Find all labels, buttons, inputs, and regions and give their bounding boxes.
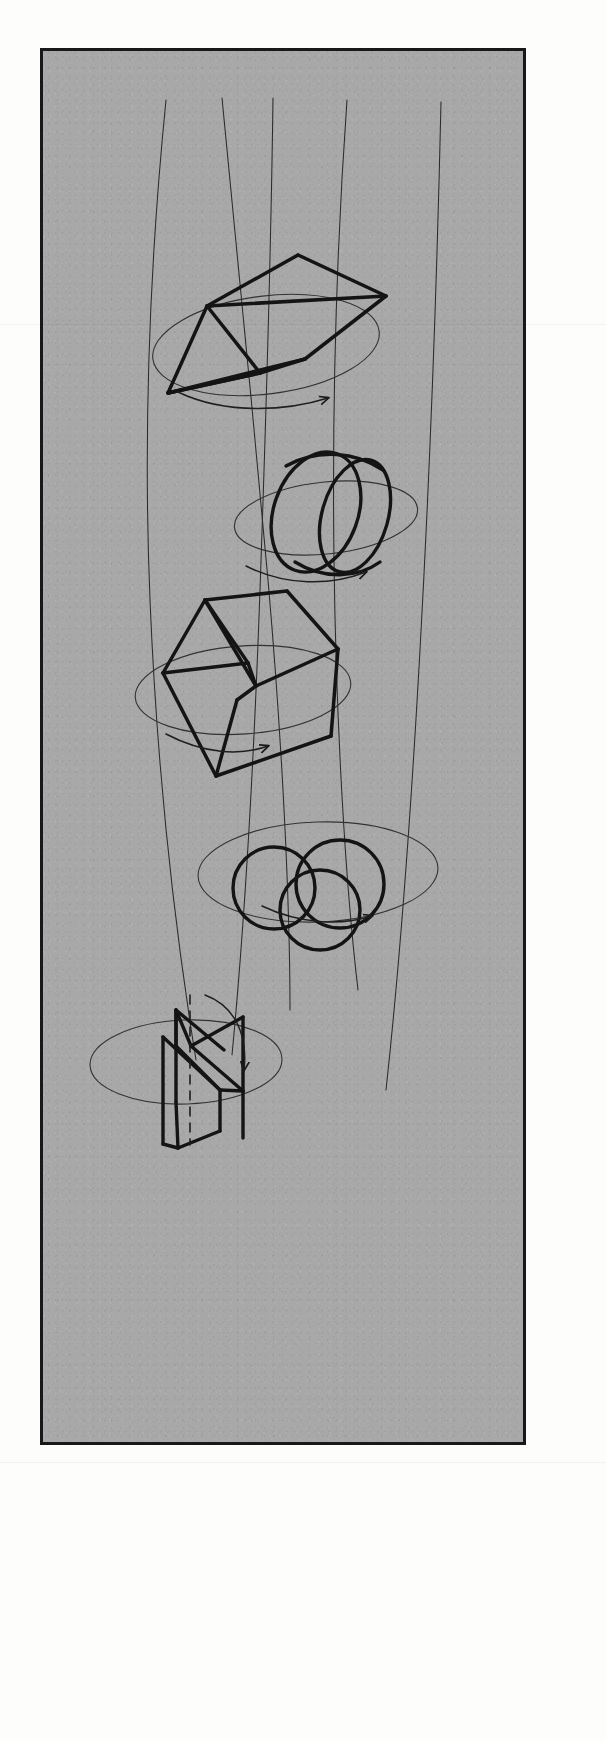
sphere-right: [296, 840, 384, 928]
cube-edges: [163, 591, 338, 776]
wedge-edge: [168, 359, 305, 393]
drawing-artwork: [0, 0, 606, 1740]
scan-line-upper: [0, 324, 606, 325]
axis-line-1: [147, 100, 196, 1060]
solid-tilted-cylinder: [231, 439, 422, 584]
scan-line-lower: [0, 1462, 606, 1463]
axis-line-2: [222, 98, 290, 1010]
wedge-edge: [298, 255, 386, 296]
wedge-edge: [207, 255, 298, 306]
solid-folded-planes: [89, 995, 284, 1148]
axis-line-5: [386, 102, 441, 1090]
solid-sphere-cluster: [196, 818, 439, 950]
spin-arrow-5: [205, 995, 245, 1070]
sphere-cluster-circles: [233, 840, 384, 950]
solid-cube: [132, 591, 354, 776]
sphere-front: [280, 870, 360, 950]
spin-arrow-3: [166, 734, 268, 752]
cylinder-body: [255, 439, 402, 584]
page-root: [0, 0, 606, 1740]
vane-edges: [163, 1010, 243, 1148]
wedge-edge: [168, 306, 207, 393]
spin-arrow-1: [178, 392, 328, 409]
wedge-edge: [207, 306, 260, 373]
